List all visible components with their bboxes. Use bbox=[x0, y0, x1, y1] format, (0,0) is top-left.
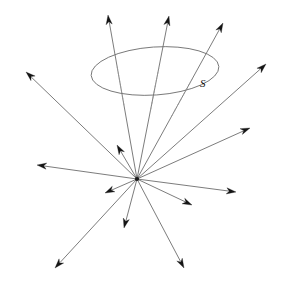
ray-ray-down-right bbox=[137, 179, 180, 261]
surface-label-s: S bbox=[200, 77, 206, 89]
arrowhead-ray-down-right bbox=[177, 258, 184, 268]
arrowhead-ray-up-right bbox=[216, 23, 223, 33]
labels-layer: S bbox=[200, 77, 206, 89]
ray-ray-down-left bbox=[60, 179, 137, 262]
figure-canvas: S bbox=[0, 0, 283, 284]
arrowheads-layer bbox=[26, 15, 266, 268]
rays-layer bbox=[31, 22, 260, 262]
ray-ray-right-mid bbox=[137, 131, 243, 179]
vector-field-diagram: S bbox=[0, 0, 283, 284]
ray-ray-left-low bbox=[112, 179, 137, 190]
arrowhead-ray-right-upper bbox=[257, 64, 266, 73]
hidden-ray-segments-layer bbox=[117, 64, 192, 116]
arrowhead-ray-up-left-short bbox=[117, 145, 124, 155]
ray-ray-left-mid bbox=[44, 166, 137, 179]
surface-ellipse-s bbox=[89, 43, 220, 100]
surface-layer bbox=[89, 43, 220, 100]
vertex-layer bbox=[135, 177, 139, 181]
ray-ray-left-upper bbox=[31, 77, 137, 179]
source-point bbox=[135, 177, 139, 181]
arrowhead-ray-up-center bbox=[164, 16, 170, 26]
arrowhead-ray-right-mid bbox=[240, 128, 250, 134]
arrowhead-ray-right-down bbox=[182, 198, 192, 205]
ray-ray-right-low bbox=[137, 179, 229, 191]
